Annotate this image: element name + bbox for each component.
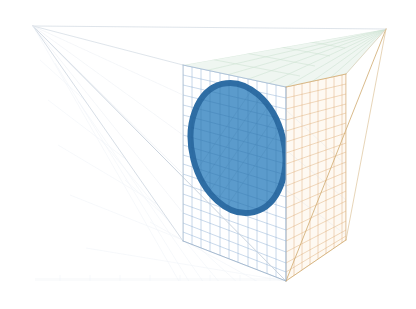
figure-canvas: [0, 0, 416, 309]
edge-left-to-back-bottom: [33, 26, 183, 241]
perspective-rays: [33, 26, 183, 213]
right-plane-fill: [286, 74, 346, 281]
edge-top-far: [33, 26, 386, 29]
right-plane: [286, 74, 346, 281]
floor-baseline: [35, 279, 300, 281]
edge-left-to-back-top: [33, 26, 183, 65]
perspective-wireframe-plot: [0, 0, 416, 309]
